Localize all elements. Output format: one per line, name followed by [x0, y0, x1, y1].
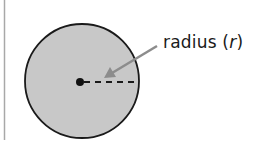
radius-label-text: radius (: [163, 32, 229, 52]
center-point: [76, 78, 84, 86]
circle-diagram: [0, 0, 265, 145]
radius-label: radius (r): [163, 32, 243, 52]
radius-label-close: ): [236, 32, 243, 52]
